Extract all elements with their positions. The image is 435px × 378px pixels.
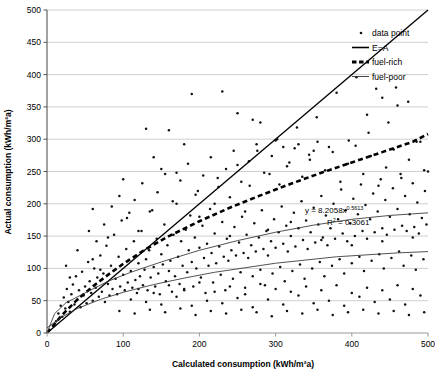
data-point [72,283,75,286]
data-point [262,248,265,251]
data-point [104,301,107,304]
data-point [159,293,162,296]
data-point [293,212,296,215]
data-point [253,222,256,225]
data-point [221,221,224,224]
legend-label-fuel-poor: fuel-poor [372,72,406,82]
data-point [207,265,210,268]
data-point [210,156,213,159]
data-point [206,243,209,246]
data-point [103,223,106,226]
data-point [375,88,378,91]
data-point [162,263,165,266]
data-point [204,292,207,295]
data-point [427,170,430,173]
data-point [247,257,250,260]
data-point [362,308,365,311]
data-point [224,289,227,292]
data-point [140,230,143,233]
data-point [244,287,247,290]
data-point [274,246,277,249]
data-point [373,301,376,304]
data-point [168,284,171,287]
data-point [179,307,182,310]
data-point [180,240,183,243]
data-point [88,280,91,283]
data-point [423,311,426,314]
data-point [181,265,184,268]
data-point [151,209,154,212]
data-point [408,314,411,317]
equation-main: y = 8.2058x [305,206,347,215]
data-point [320,195,323,198]
data-point [87,261,90,264]
data-point [396,104,399,107]
data-point [402,265,405,268]
data-point [363,270,366,273]
y-tick-label: 350 [27,102,41,112]
data-point [282,303,285,306]
data-point [57,312,60,315]
data-point [297,143,300,146]
data-point [168,270,171,273]
data-point [213,232,216,235]
data-point [351,262,354,265]
data-point [174,275,177,278]
data-point [148,249,151,252]
data-point [186,271,189,274]
data-point [236,164,239,167]
data-point [251,306,254,309]
data-point [98,296,101,299]
data-point [255,250,257,253]
data-point [198,215,201,218]
data-point [154,285,157,288]
data-point [191,305,194,308]
data-point [75,275,78,278]
data-point [73,303,76,306]
data-point [278,183,281,186]
data-point [171,290,174,293]
data-point [282,146,285,149]
data-point [332,151,335,154]
data-point [322,236,325,239]
data-point [271,272,274,275]
data-point [343,272,346,275]
data-point [377,312,380,315]
data-point [263,172,266,175]
data-point [131,287,134,290]
x-tick-label: 0 [45,339,50,349]
data-point [194,314,197,317]
data-point [396,284,399,287]
data-point [358,296,361,299]
data-point [64,307,67,310]
data-point [335,284,338,287]
y-tick-label: 200 [27,199,41,209]
data-point [348,139,351,142]
data-point [400,177,403,180]
data-point [340,188,343,191]
r-squared-rest: = 0.3061 [336,218,370,227]
data-point [175,172,178,175]
data-point [171,200,174,203]
data-point [88,230,91,233]
data-point [384,199,387,202]
data-point [143,268,146,271]
data-point [399,173,402,176]
data-point [392,310,395,313]
data-point [238,241,241,244]
data-point [314,241,317,244]
data-point [242,252,245,255]
data-point [175,203,178,206]
data-point [81,270,84,273]
data-point [380,178,383,181]
data-point [338,258,341,261]
data-point [195,267,198,270]
data-point [187,163,190,166]
data-point [118,195,121,198]
data-point [213,290,216,293]
data-point [309,159,312,162]
x-tick-label: 100 [116,339,130,349]
data-point [209,208,212,211]
data-point [117,256,120,259]
data-point [245,234,248,237]
